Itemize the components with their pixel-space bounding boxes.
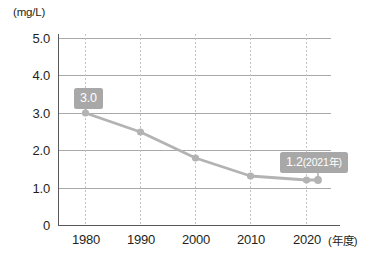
- data-point-markers: [82, 109, 322, 184]
- data-point-2010: [247, 172, 254, 179]
- x-tick-label-2010: 2010: [221, 232, 281, 247]
- x-tick-label-1980: 1980: [56, 232, 116, 247]
- data-label-end: 1.2(2021年): [280, 152, 348, 173]
- axis-lines: [58, 34, 340, 226]
- data-point-1980: [82, 109, 89, 116]
- data-label-end-value: 1.2: [286, 155, 303, 169]
- data-label-end-suffix: (2021年): [303, 156, 342, 168]
- x-axis-unit-label: (年度): [328, 232, 358, 248]
- line-chart: (mg/L) 5.0 4.0 3.0 2.0 1.0 0: [0, 0, 368, 261]
- data-point-2020: [303, 176, 310, 183]
- data-label-start-value: 3.0: [80, 91, 97, 105]
- data-label-start: 3.0: [74, 88, 103, 109]
- x-tick-label-1990: 1990: [111, 232, 171, 247]
- data-point-2000: [192, 154, 199, 161]
- vertical-gridlines: [86, 34, 307, 226]
- plot-area: [0, 0, 368, 261]
- x-tick-label-2000: 2000: [166, 232, 226, 247]
- data-point-2021: [314, 176, 322, 184]
- data-point-1990: [137, 128, 144, 135]
